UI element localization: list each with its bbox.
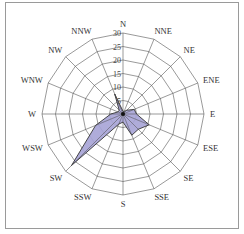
direction-label-nw: NW (48, 45, 62, 55)
direction-label-ese: ESE (203, 143, 218, 153)
direction-label-ssw: SSW (74, 192, 91, 202)
direction-label-w: W (28, 109, 36, 119)
tick-label-30: 30 (113, 29, 121, 38)
tick-label-25: 25 (113, 43, 121, 52)
tick-label-10: 10 (113, 83, 121, 92)
direction-label-wnw: WNW (21, 75, 43, 85)
data-area (72, 94, 150, 166)
series-area-frequency (72, 94, 150, 166)
direction-label-se: SE (184, 173, 194, 183)
direction-label-wsw: WSW (22, 143, 43, 153)
tick-label-15: 15 (113, 70, 121, 79)
direction-label-nnw: NNW (71, 26, 91, 36)
direction-label-ne: NE (184, 45, 195, 55)
direction-label-e: E (210, 109, 215, 119)
tick-label-20: 20 (113, 56, 121, 65)
direction-label-sse: SSE (154, 192, 169, 202)
wind-rose-chart: 51015202530 NNNENEENEEESESESSESSSWSWWSWW… (0, 0, 244, 234)
tick-label-5: 5 (117, 97, 121, 106)
direction-label-n: N (120, 19, 126, 29)
direction-label-s: S (121, 199, 126, 209)
direction-label-nne: NNE (154, 26, 171, 36)
direction-label-sw: SW (50, 173, 63, 183)
grid-spoke-ne (123, 57, 180, 114)
direction-label-ene: ENE (203, 75, 220, 85)
center-dot (121, 112, 125, 116)
radial-tick-labels: 51015202530 (113, 29, 121, 106)
